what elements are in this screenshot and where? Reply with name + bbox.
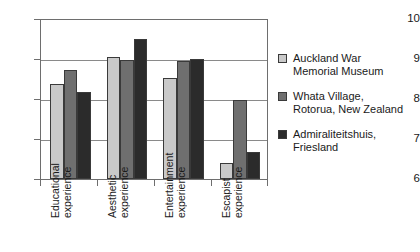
y-tick-label-6: 6 (394, 173, 420, 185)
x-category-label-entertainment: Entertainment experience (164, 188, 224, 218)
bar (64, 70, 78, 179)
legend: Auckland War Memorial Museum Whata Villa… (278, 52, 418, 166)
x-category-label-escapist: Escapist experience (221, 188, 281, 218)
x-category-line-1: Entertainment (164, 188, 175, 218)
bar (134, 39, 148, 179)
x-tick-mark-2 (154, 180, 155, 186)
legend-item-admiraliteitshuis: Admiraliteitshuis, Friesland (278, 128, 418, 153)
x-tick-mark-0 (40, 180, 41, 186)
bar-group (98, 20, 155, 179)
x-category-line-2: experience (176, 188, 187, 218)
x-category-line-1: Educational (50, 188, 61, 218)
bar (177, 61, 191, 179)
x-category-line-2: experience (233, 188, 244, 218)
legend-item-auckland: Auckland War Memorial Museum (278, 52, 418, 77)
legend-swatch-icon (278, 130, 287, 139)
bar (107, 57, 121, 179)
bar-group (211, 20, 268, 179)
bar-chart: 10 9 8 7 6 Educational experience Aesthe… (0, 0, 420, 252)
x-category-line-2: experience (62, 188, 73, 218)
x-tick-mark-3 (211, 180, 212, 186)
bars-layer (41, 20, 267, 179)
x-tick-mark-4 (267, 180, 268, 186)
x-category-line-2: experience (119, 188, 130, 218)
legend-swatch-icon (278, 92, 287, 101)
y-tick-label-10: 10 (394, 13, 420, 25)
bar (247, 152, 261, 179)
x-tick-mark-1 (97, 180, 98, 186)
x-category-label-aesthetic: Aesthetic experience (107, 188, 167, 218)
bar (190, 59, 204, 179)
legend-item-whata: Whata Village, Rotorua, New Zealand (278, 90, 418, 115)
bar (77, 92, 91, 179)
x-category-label-educational: Educational experience (50, 188, 110, 218)
legend-label: Whata Village, Rotorua, New Zealand (293, 90, 403, 115)
bar-group (41, 20, 98, 179)
bar (220, 163, 234, 179)
legend-label: Auckland War Memorial Museum (293, 52, 383, 77)
legend-label: Admiraliteitshuis, Friesland (293, 128, 376, 153)
x-category-line-1: Escapist (221, 188, 232, 218)
bar (120, 60, 134, 179)
x-category-line-1: Aesthetic (107, 188, 118, 218)
legend-swatch-icon (278, 54, 287, 63)
